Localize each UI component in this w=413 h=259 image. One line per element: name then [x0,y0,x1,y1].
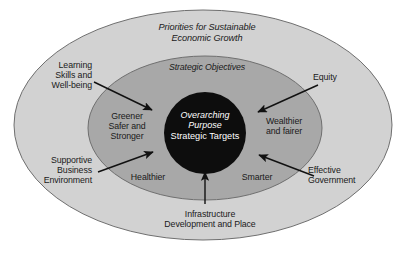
core-label-targets: Strategic Targets [151,131,259,141]
core-label-line2: Purpose [151,120,259,130]
priority-effective: Effective Government [308,165,390,185]
priority-learning: Learning Skills and Well-being [18,60,92,91]
priority-supportive: Supportive Business Environment [10,155,92,186]
core-label: Overarching Purpose Strategic Targets [151,110,259,141]
objective-wealthier: Wealthier and fairer [250,116,318,136]
outer-ring-title-line2: Economic Growth [171,33,242,43]
objective-healthier: Healthier [118,172,178,182]
outer-ring-title: Priorities for SustainableEconomic Growt… [107,22,307,44]
outer-ring-title-line1: Priorities for Sustainable [159,22,256,32]
core-label-line1: Overarching [151,110,259,120]
strategy-diagram: Priorities for SustainableEconomic Growt… [0,0,413,259]
objective-greener: Greener Safer and Stronger [96,111,158,142]
objective-smarter: Smarter [228,172,286,182]
middle-ring-title: Strategic Objectives [137,63,277,73]
priority-equity: Equity [313,72,383,82]
priority-infrastructure: Infrastructure Development and Place [135,209,285,229]
